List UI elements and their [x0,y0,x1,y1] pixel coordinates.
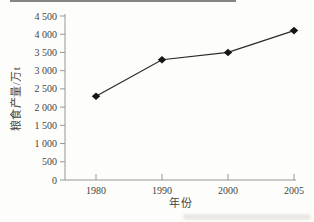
y-tick-label: 4 500 [35,11,58,22]
x-tick-label: 1980 [86,185,106,196]
grain-production-line-chart-figure: 05001 0001 5002 0002 5003 0003 5004 0004… [0,0,314,222]
y-tick-label: 3 500 [35,47,58,58]
data-point-marker [158,56,166,64]
data-point-marker [290,27,298,35]
y-tick-label: 3 000 [35,65,58,76]
y-tick-label: 0 [52,175,57,186]
page-bleed-smudge [183,214,311,220]
y-tick-label: 1 500 [35,120,58,131]
x-axis-title: 年份 [169,194,193,210]
y-tick-label: 2 500 [35,83,58,94]
y-tick-label: 2 000 [35,102,58,113]
y-tick-label: 500 [42,156,57,167]
x-tick-label: 2005 [284,185,304,196]
data-point-marker [224,49,232,57]
data-point-marker [92,92,100,100]
x-tick-label: 2000 [218,185,238,196]
line-chart-canvas: 05001 0001 5002 0002 5003 0003 5004 0004… [0,0,314,222]
y-tick-label: 1 000 [35,138,58,149]
data-line [96,31,294,97]
y-axis-title: 粮食产量/万t [7,67,23,132]
y-tick-label: 4 000 [35,29,58,40]
